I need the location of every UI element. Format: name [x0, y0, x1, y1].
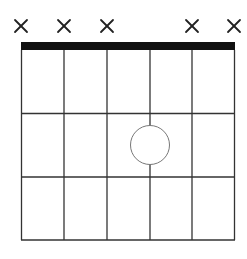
chord-diagram — [0, 0, 247, 259]
muted-icon-string-3 — [101, 20, 113, 32]
nut — [21, 42, 235, 50]
strings — [22, 50, 235, 240]
note-open-circle-string-4-fret-2 — [131, 126, 170, 165]
muted-icon-string-6 — [228, 20, 240, 32]
frets — [21, 114, 235, 241]
muted-icon-string-1 — [15, 20, 27, 32]
muted-icon-string-5 — [186, 20, 198, 32]
muted-markers — [15, 20, 240, 32]
muted-icon-string-2 — [58, 20, 70, 32]
